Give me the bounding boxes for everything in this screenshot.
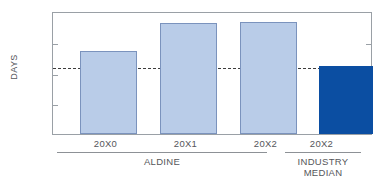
- group-label-industry-median: INDUSTRY MEDIAN: [280, 156, 366, 178]
- plot-area: [52, 12, 372, 135]
- tick-mark-right-150: [366, 44, 371, 45]
- bar-20x2-aldine[interactable]: [240, 22, 297, 134]
- group-label-industry-line1: INDUSTRY: [280, 156, 366, 167]
- x-label-bar3: 20X2: [275, 138, 368, 149]
- bar-20x0-aldine[interactable]: [80, 51, 137, 134]
- bar-20x2-industry-median[interactable]: [319, 66, 373, 134]
- group-rule-industry-median: [285, 152, 361, 153]
- group-label-industry-line2: MEDIAN: [280, 167, 366, 178]
- bar-20x1-aldine[interactable]: [160, 23, 217, 134]
- y-axis-title: DAYS: [9, 39, 19, 95]
- tick-mark-left-150: [53, 44, 58, 45]
- group-label-aldine: ALDINE: [57, 156, 267, 167]
- group-rule-aldine: [57, 152, 267, 153]
- tick-mark-left-50: [53, 105, 58, 106]
- tick-mark-left-100: [53, 75, 58, 76]
- bar-chart: DAYS 200 150 100 50 0 20X0 20X1 20X2 20X…: [0, 0, 378, 189]
